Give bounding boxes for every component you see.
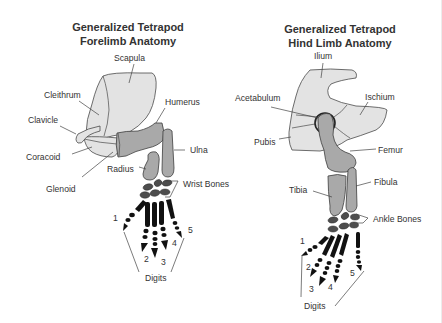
label-tibia: Tibia (289, 185, 308, 195)
forelimb-title-line1: Generalized Tetrapod (72, 21, 184, 33)
label-glenoid: Glenoid (46, 184, 76, 194)
digit-number-4: 4 (172, 238, 177, 248)
label-digits: Digits (304, 301, 326, 311)
coracoid-bone (84, 137, 118, 157)
digit-number-2: 2 (144, 254, 149, 264)
label-radius: Radius (107, 164, 134, 174)
label-wrist-bones: Wrist Bones (183, 179, 229, 189)
pelvic-girdle (289, 69, 387, 151)
hindlimb-diagram: Generalized Tetrapod Hind Limb Anatomy (235, 23, 421, 311)
label-acetabulum: Acetabulum (235, 93, 280, 103)
label-coracoid: Coracoid (26, 152, 61, 162)
label-digits: Digits (145, 273, 167, 283)
digit-number-4: 4 (328, 282, 333, 292)
ulna-bone (162, 129, 174, 177)
hindlimb-title-line1: Generalized Tetrapod (284, 23, 396, 35)
label-scapula: Scapula (114, 53, 145, 63)
label-femur: Femur (378, 145, 403, 155)
hindlimb-title-line2: Hind Limb Anatomy (288, 37, 392, 49)
digit-number-5: 5 (188, 225, 193, 235)
label-cleithrum: Cleithrum (44, 90, 81, 100)
digit-number-1: 1 (300, 236, 305, 246)
radius-bone (143, 152, 159, 180)
digit-number-3: 3 (309, 284, 314, 294)
digit-number-3: 3 (161, 257, 166, 267)
forelimb-digits (123, 199, 182, 258)
label-pubis: Pubis (254, 137, 276, 147)
label-ilium: Ilium (314, 51, 332, 61)
fibula-bone (346, 168, 357, 213)
pelvis-bone (289, 69, 387, 151)
digit-number-2: 2 (306, 262, 311, 272)
digit-number-1: 1 (113, 213, 118, 223)
label-humerus: Humerus (165, 97, 200, 107)
forelimb-title-line2: Forelimb Anatomy (80, 35, 177, 47)
forelimb-diagram: Generalized Tetrapod Forelimb Anatomy (26, 21, 229, 283)
label-fibula: Fibula (374, 177, 398, 187)
tetrapod-limb-diagram: Generalized Tetrapod Forelimb Anatomy (0, 0, 442, 323)
label-clavicle: Clavicle (28, 115, 58, 125)
digit-number-5: 5 (350, 268, 355, 278)
label-ulna: Ulna (190, 145, 208, 155)
label-ischium: Ischium (365, 92, 395, 102)
label-ankle-bones: Ankle Bones (373, 214, 421, 224)
tibia-bone (328, 175, 346, 217)
